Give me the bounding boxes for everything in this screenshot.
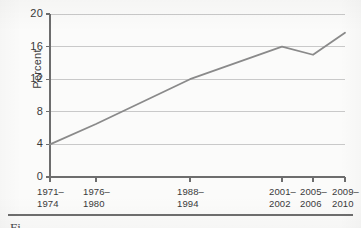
x-tick-label-line: 1980 [83,198,110,210]
figure-panel: Percent 048121620 1971–19741976–19801988… [0,0,361,228]
x-tick-label-line: 2009– [332,186,359,198]
x-tick-label-line: 1976– [83,186,110,198]
x-tick-label-5: 2009–2010 [332,186,359,209]
x-tick-label-line: 2001– [269,186,296,198]
x-tick-label-1: 1976–1980 [83,186,110,209]
y-tick-label-12: 12 [19,72,43,84]
y-tick-label-16: 16 [19,40,43,52]
x-tick-label-2: 1988–1994 [177,186,204,209]
x-tick-label-4: 2005–2006 [300,186,327,209]
y-tick-label-20: 20 [19,7,43,19]
y-tick-label-0: 0 [19,170,43,182]
x-tick-label-line: 2010 [332,198,359,210]
x-tick-label-line: 1988– [177,186,204,198]
figure-caption: Fi [10,220,21,228]
caption-divider [8,214,353,216]
y-tick-label-8: 8 [19,105,43,117]
x-tick-label-line: 2006 [300,198,327,210]
x-tick-label-line: 2002 [269,198,296,210]
y-tick-label-4: 4 [19,137,43,149]
x-tick-label-line: 1971– [37,186,64,198]
x-tick-label-line: 1974 [37,198,64,210]
x-tick-label-0: 1971–1974 [37,186,64,209]
data-line-series-0 [50,33,345,145]
x-tick-label-line: 2005– [300,186,327,198]
x-tick-label-3: 2001–2002 [269,186,296,209]
x-tick-label-line: 1994 [177,198,204,210]
